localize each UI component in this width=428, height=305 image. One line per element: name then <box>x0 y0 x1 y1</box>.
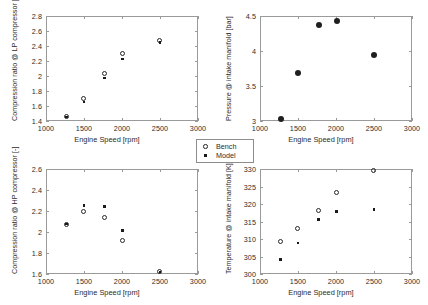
y-tick <box>46 16 49 17</box>
y-tick-label: 2 <box>0 72 42 81</box>
y-tick <box>260 187 263 188</box>
x-tick <box>298 118 299 121</box>
x-tick <box>122 271 123 274</box>
x-tick <box>336 169 337 172</box>
y-tick <box>46 169 49 170</box>
data-point-model <box>297 242 300 245</box>
x-axis-label: Engine Speed [rpm] <box>0 288 214 297</box>
open-circle-icon <box>200 142 211 151</box>
y-tick <box>409 121 412 122</box>
y-tick <box>409 169 412 170</box>
subplot-intake-manifold-pressure: 1000150020002500300033.544.5Engine Speed… <box>214 0 428 152</box>
y-tick <box>195 61 198 62</box>
y-tick <box>409 51 412 52</box>
y-tick <box>46 211 49 212</box>
y-tick <box>195 31 198 32</box>
data-point-bench <box>278 239 283 244</box>
x-axis-label: Engine Speed [rpm] <box>214 288 428 297</box>
x-tick <box>374 118 375 121</box>
x-tick <box>160 169 161 172</box>
x-tick <box>84 118 85 121</box>
subplot-hp-compression-ratio: 100015002000250030001.61.822.22.42.6Engi… <box>0 153 214 305</box>
x-tick-label: 3000 <box>190 124 206 133</box>
x-tick-label: 2000 <box>114 277 130 286</box>
x-tick-label: 2500 <box>152 277 168 286</box>
y-tick <box>46 46 49 47</box>
y-tick <box>195 253 198 254</box>
data-point-bench <box>334 190 339 195</box>
y-tick <box>195 91 198 92</box>
y-tick <box>409 222 412 223</box>
x-tick <box>412 169 413 172</box>
x-tick <box>298 169 299 172</box>
x-tick <box>198 16 199 19</box>
y-tick-label: 3.5 <box>214 82 256 91</box>
data-point-model <box>65 223 68 226</box>
y-tick-label: 2.8 <box>0 12 42 21</box>
y-tick-label: 325 <box>214 182 256 191</box>
y-tick-label: 4 <box>214 47 256 56</box>
y-tick-label: 2.4 <box>0 42 42 51</box>
y-tick <box>409 204 412 205</box>
y-tick-label: 1.8 <box>0 249 42 258</box>
x-tick <box>374 271 375 274</box>
y-tick-label: 1.6 <box>0 102 42 111</box>
x-tick <box>198 118 199 121</box>
data-point-model <box>65 116 68 119</box>
y-tick-label: 330 <box>214 165 256 174</box>
plot-area-hp-compression-ratio <box>46 169 198 274</box>
y-tick <box>409 257 412 258</box>
data-point-bench <box>102 215 107 220</box>
data-point-model <box>335 210 338 213</box>
y-tick <box>260 86 263 87</box>
x-tick <box>412 118 413 121</box>
data-point-model <box>103 205 106 208</box>
data-point-bench <box>295 226 300 231</box>
y-tick <box>409 16 412 17</box>
y-tick <box>195 190 198 191</box>
y-tick-label: 1.8 <box>0 87 42 96</box>
x-tick <box>122 118 123 121</box>
data-point-overlapped <box>316 22 322 28</box>
x-tick-label: 2000 <box>114 124 130 133</box>
plot-area-lp-compression-ratio <box>46 16 198 121</box>
y-tick-label: 300 <box>214 270 256 279</box>
y-tick-label: 2.6 <box>0 165 42 174</box>
y-tick <box>260 204 263 205</box>
x-tick <box>122 16 123 19</box>
y-tick-label: 3 <box>214 117 256 126</box>
y-tick <box>260 239 263 240</box>
legend-label-model: Model <box>216 151 236 160</box>
figure-canvas: 100015002000250030001.41.61.822.22.42.62… <box>0 0 428 305</box>
y-tick <box>46 76 49 77</box>
y-tick-label: 1.4 <box>0 117 42 126</box>
y-tick <box>260 257 263 258</box>
data-point-overlapped <box>278 116 284 122</box>
data-point-model <box>317 218 320 221</box>
y-axis-label: Temperature @ intake manifold [K] <box>224 163 233 274</box>
x-tick-label: 2500 <box>152 124 168 133</box>
data-point-model <box>279 258 282 261</box>
y-tick <box>260 169 263 170</box>
plot-area-intake-manifold-pressure <box>260 16 412 121</box>
y-tick <box>46 253 49 254</box>
x-tick <box>198 271 199 274</box>
legend-item-model: Model <box>200 151 249 160</box>
y-tick <box>260 16 263 17</box>
y-tick-label: 315 <box>214 217 256 226</box>
y-axis-label: Compression ratio @ HP compressor [-] <box>10 147 19 274</box>
subplot-lp-compression-ratio: 100015002000250030001.41.61.822.22.42.62… <box>0 0 214 152</box>
x-tick <box>298 271 299 274</box>
y-tick <box>46 121 49 122</box>
x-tick <box>84 16 85 19</box>
y-tick-label: 2.2 <box>0 207 42 216</box>
x-tick-label: 2000 <box>328 277 344 286</box>
y-tick-label: 4.5 <box>214 12 256 21</box>
x-tick <box>160 16 161 19</box>
filled-dot-icon <box>200 151 211 160</box>
y-tick <box>46 91 49 92</box>
y-tick <box>195 16 198 17</box>
x-tick-label: 1500 <box>290 277 306 286</box>
data-point-overlapped <box>334 18 340 24</box>
y-tick <box>46 61 49 62</box>
